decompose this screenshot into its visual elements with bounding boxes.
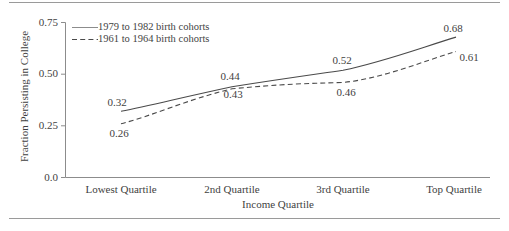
chart-plot-area <box>0 0 509 231</box>
value-label-dashed-top: 0.61 <box>447 51 491 63</box>
y-tick-label-075: 0.75 <box>24 16 58 28</box>
figure-container: 0.75 0.50 0.25 0.0 Fraction Persisting i… <box>0 0 509 231</box>
series-line-1961-1964 <box>121 52 456 124</box>
legend-label-1979-1982: 1979 to 1982 birth cohorts <box>98 21 209 32</box>
value-label-dashed-3rd: 0.46 <box>324 86 368 98</box>
x-tick-label-3rd-quartile: 3rd Quartile <box>288 183 398 195</box>
x-tick-label-2nd-quartile: 2nd Quartile <box>177 183 287 195</box>
x-tick-label-top-quartile: Top Quartile <box>399 183 509 195</box>
y-tick-label-000: 0.0 <box>24 171 58 183</box>
legend-label-1961-1964: 1961 to 1964 birth cohorts <box>98 33 209 44</box>
x-tick-label-lowest-quartile: Lowest Quartile <box>66 183 176 195</box>
value-label-solid-3rd: 0.52 <box>320 54 364 66</box>
x-axis-title: Income Quartile <box>178 198 378 210</box>
y-axis-title: Fraction Persisting in College <box>18 31 30 162</box>
series-line-1979-1982 <box>121 37 456 111</box>
value-label-solid-top: 0.68 <box>431 22 475 34</box>
value-label-dashed-lowest: 0.26 <box>97 127 141 139</box>
value-label-dashed-2nd: 0.43 <box>211 88 255 100</box>
value-label-solid-lowest: 0.32 <box>95 96 139 108</box>
value-label-solid-2nd: 0.44 <box>208 70 252 82</box>
